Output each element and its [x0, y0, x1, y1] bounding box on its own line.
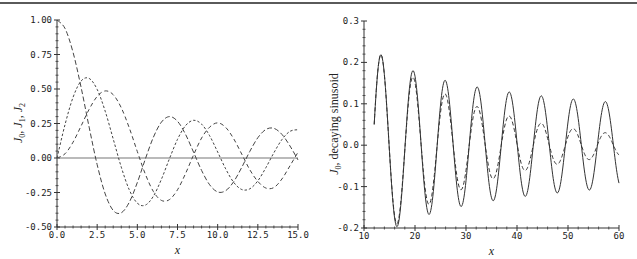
x-tick-label: 12.5: [247, 230, 269, 240]
y-tick-label: 0.50: [30, 84, 52, 94]
y-tick-label: 0.00: [30, 153, 52, 163]
x-axis-label: x: [174, 243, 181, 257]
y-tick-label: -0.2: [337, 223, 359, 233]
series-j0-line: [57, 20, 298, 214]
x-tick-label: 20: [410, 231, 421, 241]
y-tick-label: 0.0: [343, 140, 359, 150]
y-axis-label: J0, decaying sinusoid: [327, 73, 343, 175]
x-tick-label: 40: [512, 231, 523, 241]
x-tick-label: 7.5: [169, 230, 185, 240]
series-j1-line: [57, 78, 298, 206]
figure: -0.50-0.250.000.250.500.751.000.02.55.07…: [0, 0, 637, 259]
j0-vs-decaying-sinusoid-chart: -0.2-0.10.00.10.20.3102030405060xJ0, dec…: [327, 16, 624, 258]
y-tick-label: -0.1: [337, 182, 359, 192]
y-tick-label: 0.2: [343, 57, 359, 67]
y-tick-label: 0.75: [30, 50, 52, 60]
x-tick-label: 5.0: [129, 230, 145, 240]
bessel-functions-chart: -0.50-0.250.000.250.500.751.000.02.55.07…: [11, 15, 309, 257]
x-tick-label: 10: [359, 231, 370, 241]
x-tick-label: 0.0: [49, 230, 65, 240]
y-tick-label: 1.00: [30, 15, 52, 25]
y-tick-label: 0.1: [343, 99, 359, 109]
series-j2-line: [57, 91, 298, 201]
x-tick-label: 2.5: [89, 230, 105, 240]
y-axis-label: J0, J1, J2: [11, 103, 27, 143]
x-tick-label: 60: [614, 231, 625, 241]
y-tick-label: -0.25: [25, 188, 52, 198]
series-decaying-sinusoid-line: [374, 55, 619, 224]
x-tick-label: 15.0: [287, 230, 309, 240]
y-tick-label: 0.3: [343, 16, 359, 26]
x-tick-label: 50: [563, 231, 574, 241]
x-tick-label: 10.0: [207, 230, 229, 240]
y-tick-label: 0.25: [30, 119, 52, 129]
x-axis-label: x: [488, 244, 495, 258]
x-tick-label: 30: [461, 231, 472, 241]
